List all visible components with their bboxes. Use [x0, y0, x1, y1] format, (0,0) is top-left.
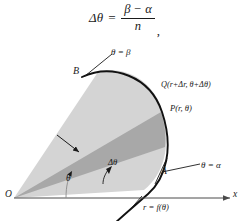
label-point-p: P(r, θ) — [170, 104, 192, 113]
delta-theta-formula: Δθ=β − αn, — [0, 4, 248, 34]
label-x-axis: x — [233, 190, 237, 200]
formula-fraction: β − αn — [121, 3, 154, 33]
polar-region-diagram — [0, 40, 248, 221]
label-point-b: B — [73, 66, 79, 76]
label-angle-delta-theta: Δθ — [108, 158, 117, 167]
formula-denominator: n — [121, 20, 154, 34]
label-angle-theta: θ — [66, 174, 71, 184]
formula-left-hand-side: Δθ — [89, 10, 103, 25]
formula-equals-sign: = — [107, 10, 116, 25]
label-point-a: A — [161, 167, 167, 177]
label-ray-beta: θ = β — [111, 48, 130, 57]
label-point-q: Q(r+Δr, θ+Δθ) — [161, 81, 211, 89]
formula-numerator: β − α — [121, 3, 154, 17]
label-ray-alpha: θ = α — [201, 161, 221, 170]
figure-canvas: Δθ=β − αn, — [0, 0, 248, 221]
label-curve-equation: r = f(θ) — [143, 203, 169, 212]
formula-trailing-comma: , — [157, 23, 160, 38]
label-origin: O — [5, 190, 12, 200]
alpha-leader-line — [162, 164, 200, 172]
